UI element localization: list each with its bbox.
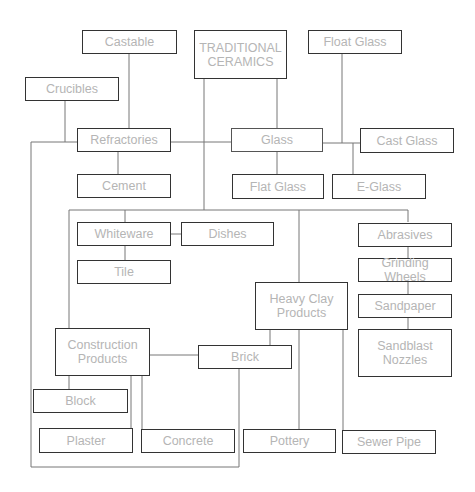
node-cement: Cement bbox=[77, 174, 171, 198]
node-concrete: Concrete bbox=[141, 429, 235, 453]
node-sandblast-nozzles: Sandblast Nozzles bbox=[358, 329, 452, 377]
node-castable: Castable bbox=[82, 30, 177, 54]
node-sandpaper: Sandpaper bbox=[358, 294, 452, 318]
node-refractories: Refractories bbox=[77, 128, 171, 152]
node-brick: Brick bbox=[198, 345, 292, 369]
node-traditional-ceramics: TRADITIONAL CERAMICS bbox=[194, 30, 287, 79]
node-heavy-clay-products: Heavy Clay Products bbox=[255, 282, 348, 330]
node-construction-products: Construction Products bbox=[55, 328, 150, 376]
node-cast-glass: Cast Glass bbox=[360, 128, 454, 153]
node-e-glass: E-Glass bbox=[332, 174, 426, 199]
node-pottery: Pottery bbox=[243, 429, 336, 453]
node-plaster: Plaster bbox=[39, 428, 133, 453]
node-glass: Glass bbox=[231, 128, 323, 152]
node-float-glass: Float Glass bbox=[308, 30, 402, 54]
node-crucibles: Crucibles bbox=[25, 77, 119, 101]
node-sewer-pipe: Sewer Pipe bbox=[342, 430, 436, 454]
node-grinding-wheels: Grinding Wheels bbox=[358, 258, 452, 282]
node-dishes: Dishes bbox=[181, 222, 274, 246]
node-flat-glass: Flat Glass bbox=[232, 174, 324, 199]
node-whiteware: Whiteware bbox=[77, 222, 171, 246]
node-abrasives: Abrasives bbox=[358, 223, 452, 247]
node-block: Block bbox=[33, 389, 128, 413]
node-tile: Tile bbox=[77, 260, 171, 284]
